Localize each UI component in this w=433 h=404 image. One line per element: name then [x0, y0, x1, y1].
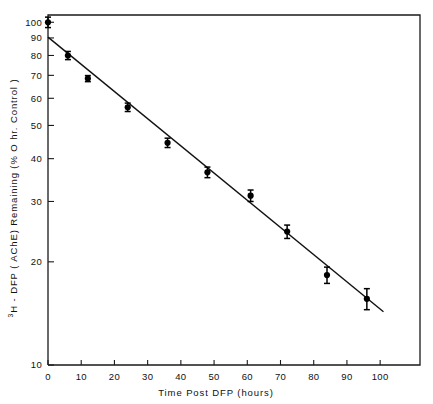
x-tick-label: 70	[275, 371, 286, 382]
y-tick-label: 60	[31, 93, 42, 104]
data-point[interactable]	[284, 229, 290, 235]
x-tick-label: 50	[208, 371, 219, 382]
x-tick-label: 10	[76, 371, 87, 382]
y-tick-label: 10	[31, 359, 42, 370]
x-tick-label: 60	[242, 371, 253, 382]
y-axis-title: 3H - DFP ( AChE) Remaining (% O hr. Cont…	[7, 79, 19, 318]
regression-line	[48, 37, 383, 312]
data-point[interactable]	[125, 104, 131, 110]
data-point[interactable]	[65, 52, 71, 58]
y-tick-label: 30	[31, 196, 42, 207]
y-tick-label: 90	[31, 32, 42, 43]
figure-container: 0102030405060708090100102030405060708090…	[0, 0, 433, 404]
y-tick-label: 50	[31, 120, 42, 131]
x-tick-label: 30	[142, 371, 153, 382]
y-tick-label: 100	[25, 17, 42, 28]
x-tick-label: 100	[372, 371, 389, 382]
data-point[interactable]	[164, 140, 170, 146]
data-point[interactable]	[324, 272, 330, 278]
y-tick-label: 80	[31, 50, 42, 61]
x-tick-label: 40	[175, 371, 186, 382]
x-tick-label: 20	[109, 371, 120, 382]
x-tick-label: 0	[45, 371, 51, 382]
x-tick-label: 90	[341, 371, 352, 382]
y-tick-label: 70	[31, 70, 42, 81]
data-point[interactable]	[85, 75, 91, 81]
chart-canvas: 0102030405060708090100102030405060708090…	[0, 0, 433, 404]
data-point[interactable]	[45, 19, 51, 25]
x-tick-label: 80	[308, 371, 319, 382]
x-axis-title: Time Post DFP (hours)	[158, 387, 274, 398]
y-tick-label: 20	[31, 256, 42, 267]
data-point[interactable]	[248, 193, 254, 199]
data-point[interactable]	[204, 169, 210, 175]
y-tick-label: 40	[31, 153, 42, 164]
svg-text:3H - DFP ( AChE) Remaining (%: 3H - DFP ( AChE) Remaining (% O hr. Cont…	[7, 79, 19, 318]
data-point[interactable]	[364, 296, 370, 302]
